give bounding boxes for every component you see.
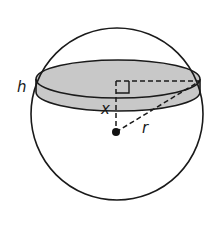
disk-slice bbox=[36, 60, 200, 111]
label-h: h bbox=[17, 78, 27, 96]
sphere-slice-diagram: h x r bbox=[0, 0, 215, 227]
label-x: x bbox=[100, 100, 110, 118]
center-point bbox=[112, 128, 120, 136]
label-r: r bbox=[142, 119, 149, 137]
sphere-outline bbox=[31, 28, 203, 200]
